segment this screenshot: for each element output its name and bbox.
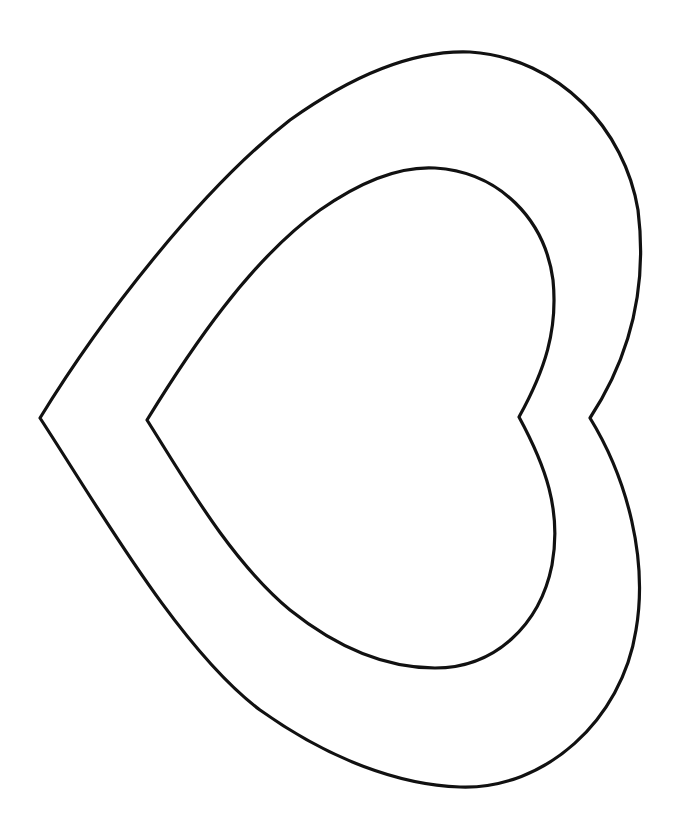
inner-heart-outline [147, 168, 555, 668]
heart-drawing [0, 0, 681, 827]
outer-heart-outline [40, 52, 641, 787]
